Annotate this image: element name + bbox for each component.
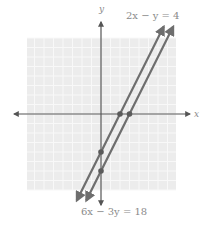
- intercept-point-1-2: [117, 111, 123, 117]
- x-axis-label: x: [194, 110, 199, 119]
- intercept-point-1-1: [98, 149, 104, 155]
- intercept-point-2-1: [98, 168, 104, 174]
- coordinate-plane: [0, 0, 208, 229]
- line2-equation-label: 6x − 3y = 18: [81, 207, 147, 217]
- y-axis-label: y: [99, 5, 104, 14]
- intercept-point-2-2: [127, 111, 133, 117]
- line1-equation-label: 2x − y = 4: [126, 11, 180, 21]
